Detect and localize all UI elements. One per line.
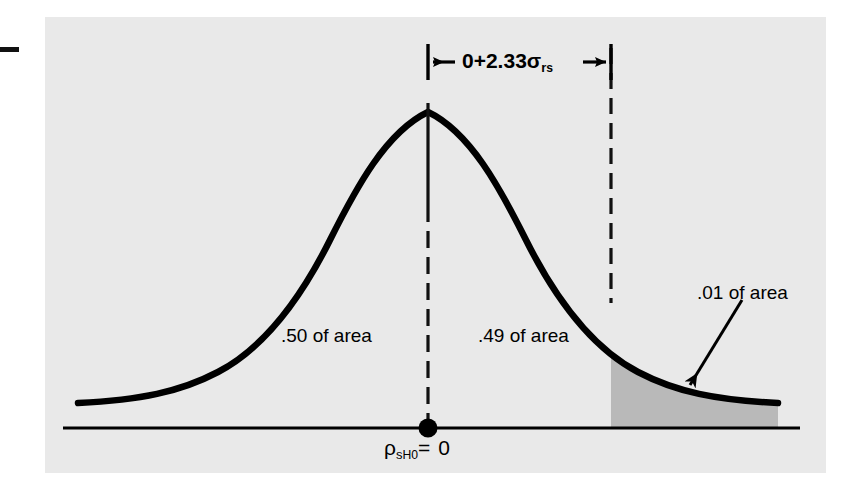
mean-value-label: ρsH0= 0: [384, 437, 451, 461]
rho-symbol: ρ: [384, 436, 396, 459]
rho-subscript-h0: H0: [402, 448, 418, 462]
mean-equals-zero: = 0: [418, 436, 451, 459]
tail-label-leader-line: [690, 300, 742, 385]
right-area-label: .49 of area: [478, 326, 569, 345]
sigma-subscript-s: s: [546, 61, 553, 75]
critical-value-prefix: 0+2.33: [462, 49, 527, 72]
mean-point-marker: [419, 419, 438, 438]
critical-value-label: 0+2.33σrs: [462, 50, 553, 74]
sigma-symbol: σ: [527, 49, 541, 72]
left-area-label: .50 of area: [281, 326, 372, 345]
distribution-chart: [0, 0, 861, 500]
tail-area-label: .01 of area: [697, 283, 788, 302]
figure-root: .50 of area .49 of area .01 of area 0+2.…: [0, 0, 861, 500]
